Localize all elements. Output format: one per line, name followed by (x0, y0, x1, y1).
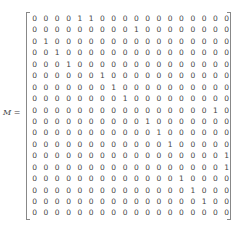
matrix-cell: 0 (40, 173, 51, 184)
matrix-cell: 0 (40, 127, 51, 138)
matrix-cell: 0 (97, 173, 108, 184)
matrix-cell: 0 (153, 185, 164, 196)
matrix-cell: 0 (74, 36, 85, 47)
matrix-cell: 0 (119, 207, 130, 218)
matrix-cell: 0 (165, 162, 176, 173)
matrix-cell: 0 (74, 150, 85, 161)
matrix-cell: 1 (97, 70, 108, 81)
matrix-cell: 0 (52, 139, 63, 150)
matrix-cell: 0 (165, 185, 176, 196)
matrix-cell: 0 (85, 36, 96, 47)
matrix-cell: 1 (131, 24, 142, 35)
matrix-cell: 0 (97, 36, 108, 47)
matrix-cell: 0 (176, 70, 187, 81)
matrix-cell: 0 (198, 150, 209, 161)
matrix-cell: 0 (165, 93, 176, 104)
matrix-cell: 0 (119, 82, 130, 93)
matrix-cell: 0 (187, 24, 198, 35)
matrix-cell: 0 (29, 24, 40, 35)
matrix-cell: 0 (52, 24, 63, 35)
matrix-cell: 0 (108, 24, 119, 35)
matrix-cell: 0 (52, 173, 63, 184)
matrix-cell: 0 (108, 13, 119, 24)
matrix-cell: 0 (29, 93, 40, 104)
matrix-cell: 0 (108, 139, 119, 150)
matrix-cell: 0 (119, 173, 130, 184)
matrix-cell: 0 (119, 162, 130, 173)
matrix-cell: 0 (63, 196, 74, 207)
matrix-cell: 0 (187, 207, 198, 218)
right-bracket (227, 12, 231, 220)
matrix-cell: 0 (108, 162, 119, 173)
matrix-cell: 0 (63, 207, 74, 218)
matrix-cell: 0 (85, 162, 96, 173)
matrix-cell: 0 (131, 173, 142, 184)
matrix-cell: 0 (29, 139, 40, 150)
matrix-cell: 0 (142, 70, 153, 81)
matrix-cell: 0 (198, 36, 209, 47)
matrix-cell: 1 (85, 13, 96, 24)
matrix-cell: 0 (63, 13, 74, 24)
matrix-cell: 0 (198, 13, 209, 24)
matrix-cell: 0 (187, 105, 198, 116)
matrix-cell: 0 (165, 116, 176, 127)
matrix-cell: 0 (153, 82, 164, 93)
matrix-cell: 0 (119, 105, 130, 116)
matrix-cell: 0 (165, 150, 176, 161)
matrix-cell: 0 (142, 13, 153, 24)
matrix-cell: 0 (97, 82, 108, 93)
matrix-cell: 0 (176, 13, 187, 24)
matrix-cell: 0 (29, 116, 40, 127)
matrix-cell: 1 (52, 47, 63, 58)
matrix-cell: 0 (131, 196, 142, 207)
matrix-cell: 0 (52, 82, 63, 93)
matrix-cell: 0 (198, 105, 209, 116)
matrix-cell: 0 (176, 47, 187, 58)
matrix-cell: 0 (165, 173, 176, 184)
matrix-cell: 0 (210, 173, 221, 184)
matrix-cell: 0 (29, 70, 40, 81)
matrix-cell: 0 (142, 82, 153, 93)
matrix-cell: 0 (97, 116, 108, 127)
matrix-cell: 0 (108, 185, 119, 196)
matrix-cell: 0 (74, 162, 85, 173)
matrix-cell: 0 (97, 93, 108, 104)
matrix-cell: 0 (40, 207, 51, 218)
matrix-cell: 0 (119, 139, 130, 150)
matrix-cell: 0 (165, 24, 176, 35)
matrix-cell: 0 (74, 105, 85, 116)
matrix-cell: 0 (187, 116, 198, 127)
matrix-cell: 0 (108, 70, 119, 81)
matrix-cell: 0 (108, 127, 119, 138)
matrix-cell: 0 (29, 59, 40, 70)
matrix-cell: 0 (198, 127, 209, 138)
matrix-cell: 0 (153, 162, 164, 173)
matrix-cell: 0 (108, 59, 119, 70)
matrix-cell: 1 (210, 105, 221, 116)
matrix-cell: 0 (52, 105, 63, 116)
matrix-cell: 1 (176, 173, 187, 184)
matrix-cell: 0 (153, 36, 164, 47)
matrix-grid: 0000110000000000000000000001000000000100… (29, 13, 232, 219)
matrix-cell: 0 (187, 196, 198, 207)
matrix-cell: 0 (142, 24, 153, 35)
matrix-cell: 0 (165, 196, 176, 207)
matrix-cell: 0 (210, 24, 221, 35)
matrix-cell: 0 (187, 36, 198, 47)
matrix-cell: 0 (108, 196, 119, 207)
matrix-cell: 0 (210, 150, 221, 161)
matrix-cell: 0 (131, 70, 142, 81)
matrix-cell: 0 (52, 59, 63, 70)
matrix-cell: 0 (198, 82, 209, 93)
matrix-cell: 0 (187, 47, 198, 58)
matrix-cell: 0 (40, 13, 51, 24)
matrix-cell: 0 (131, 207, 142, 218)
matrix-cell: 0 (85, 93, 96, 104)
matrix-cell: 0 (198, 47, 209, 58)
matrix-cell: 0 (63, 24, 74, 35)
matrix-cell: 0 (153, 13, 164, 24)
matrix-cell: 0 (108, 36, 119, 47)
matrix-cell: 0 (153, 93, 164, 104)
matrix-cell: 0 (85, 127, 96, 138)
matrix-cell: 0 (187, 70, 198, 81)
